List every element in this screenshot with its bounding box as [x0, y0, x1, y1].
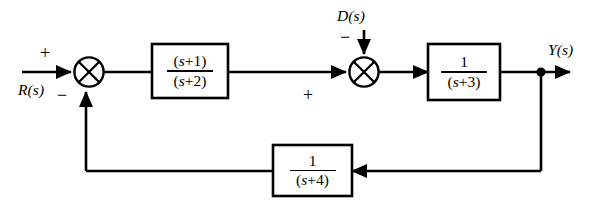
input-signal-label: R(s)	[18, 82, 44, 98]
summer1-minus-sign: −	[57, 86, 67, 104]
block-forward-2-expression: 1 (s+3)	[428, 44, 500, 100]
block-feedback-denominator: (s+4)	[294, 171, 331, 188]
block-feedback-expression: 1 (s+4)	[273, 145, 352, 196]
block-forward-1-numerator: (s+1)	[172, 53, 209, 70]
block-diagram-canvas: R(s) D(s) Y(s) + − + − (s+1) (s+2) 1 (s+…	[0, 0, 596, 216]
output-junction-dot	[536, 67, 545, 76]
output-signal-label: Y(s)	[548, 42, 573, 58]
disturbance-signal-label: D(s)	[337, 8, 365, 24]
summer-2	[349, 57, 378, 86]
summer-1	[74, 57, 103, 86]
block-forward-1-expression: (s+1) (s+2)	[152, 44, 228, 98]
summer1-plus-sign: +	[40, 44, 50, 62]
block-forward-1-denominator: (s+2)	[172, 72, 209, 89]
block-forward-2-numerator: 1	[458, 54, 470, 71]
block-feedback-fraction: 1 (s+4)	[290, 153, 336, 189]
summer2-minus-sign: −	[340, 28, 350, 46]
block-forward-2-denominator: (s+3)	[446, 73, 483, 90]
block-forward-1-fraction: (s+1) (s+2)	[167, 53, 213, 89]
summer2-plus-sign: +	[303, 86, 313, 104]
block-forward-2-fraction: 1 (s+3)	[441, 54, 487, 90]
block-feedback-numerator: 1	[307, 153, 319, 170]
